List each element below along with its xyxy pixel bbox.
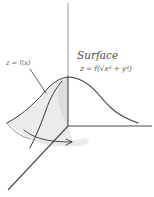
surface-right-shading — [108, 102, 136, 122]
surface-of-revolution-diagram — [0, 0, 154, 197]
surface-equation: z = f(√x² + y²) — [80, 64, 132, 73]
bell-curve-right — [68, 77, 138, 123]
curve-label-leader — [30, 69, 46, 93]
curve-equation: z = f(x) — [6, 59, 31, 67]
surface-title: Surface — [77, 49, 118, 61]
